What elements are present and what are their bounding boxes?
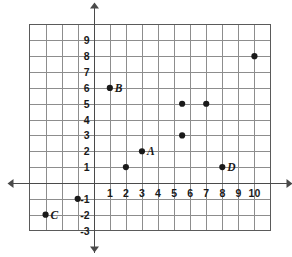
data-point-c (42, 212, 48, 218)
data-point-a (139, 148, 145, 154)
point-label-b: B (114, 82, 123, 94)
data-point (251, 53, 257, 59)
y-tick-label: 2 (84, 145, 90, 157)
grid-lines (30, 25, 271, 231)
y-tick-label: -1 (80, 193, 89, 205)
data-point (179, 132, 185, 138)
data-point (179, 101, 185, 107)
x-tick-label: 9 (235, 187, 241, 199)
x-tick-label: 5 (171, 187, 177, 199)
y-tick-label: 9 (84, 34, 90, 46)
x-tick-label: 10 (249, 187, 261, 199)
y-tick-label: 1 (84, 161, 90, 173)
y-tick-label: -3 (80, 225, 89, 237)
point-label-c: C (51, 209, 59, 221)
coordinate-plane-figure: 12345678910 987654321-1-2-3 BACD (0, 0, 292, 257)
point-label-d: D (226, 161, 236, 173)
coordinate-grid-plot: 12345678910 987654321-1-2-3 BACD (0, 0, 292, 257)
x-tick-label: 7 (203, 187, 209, 199)
x-tick-label: 2 (123, 187, 129, 199)
x-tick-label: 3 (139, 187, 145, 199)
data-point-b (107, 85, 113, 91)
x-tick-label: 4 (155, 187, 161, 199)
data-point (203, 101, 209, 107)
x-tick-label: 6 (187, 187, 193, 199)
x-tick-label: 1 (107, 187, 113, 199)
data-point-d (219, 164, 225, 170)
data-point (75, 196, 81, 202)
point-label-a: A (146, 145, 155, 157)
y-tick-label: 3 (84, 129, 90, 141)
x-tick-label: 8 (219, 187, 225, 199)
y-tick-label: -2 (80, 209, 89, 221)
data-point (123, 164, 129, 170)
y-tick-label: 8 (84, 50, 90, 62)
y-tick-label: 7 (84, 66, 90, 78)
y-tick-label: 5 (84, 98, 90, 110)
x-axis-tick-labels: 12345678910 (107, 187, 261, 199)
y-tick-label: 6 (84, 82, 90, 94)
y-tick-label: 4 (84, 114, 90, 126)
